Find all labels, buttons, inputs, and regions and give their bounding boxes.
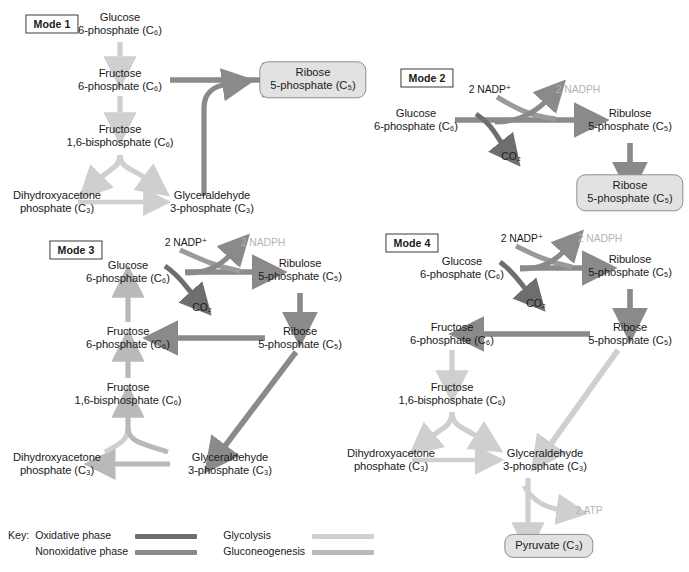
metabolite-line-1: Fructose <box>431 321 474 333</box>
metabolite-line-2: 5-phosphate (C₅) <box>588 266 672 278</box>
metabolite-line-2: 5-phosphate (C₅) <box>588 334 672 346</box>
metabolite-line-1: Fructose <box>107 381 150 393</box>
metabolite-line-2: 5-phosphate (C₅) <box>270 80 355 92</box>
mode3-ribulose-5-phosphate: Ribulose 5-phosphate (C₅) <box>258 257 342 283</box>
mode3-co2-label: CO₂ <box>192 302 211 314</box>
metabolite-line-2: 5-phosphate (C₅) <box>258 338 342 350</box>
metabolite-line-1: Dihydroxyacetone <box>13 189 101 201</box>
legend-swatch-nonoxidative <box>135 550 197 555</box>
metabolite-line-2: 5-phosphate (C₅) <box>258 270 342 282</box>
legend-label-nonoxidative: Nonoxidative phase <box>35 545 135 561</box>
legend: Key: Oxidative phase Glycolysis Nonoxida… <box>8 529 374 561</box>
metabolite-line-2: 5-phosphate (C₅) <box>587 193 672 205</box>
legend-label-gluconeogenesis: Gluconeogenesis <box>223 545 312 561</box>
mode4-ribose-5-phosphate: Ribose 5-phosphate (C₅) <box>588 321 672 347</box>
mode3-glyceraldehyde-3-phosphate: Glyceraldehyde 3-phosphate (C₃) <box>188 451 272 477</box>
mode2-nadp-plus-label: 2 NADP⁺ <box>469 84 511 96</box>
metabolite-line-1: Fructose <box>431 381 474 393</box>
mode1-fructose-1-6-bisphosphate: Fructose 1,6-bisphosphate (C₆) <box>67 123 174 149</box>
metabolite-line-2: 6-phosphate (C₆) <box>410 334 494 346</box>
metabolite-line-2: 1,6-bisphosphate (C₆) <box>75 394 182 406</box>
mode3-nadph-label: 2 NADPH <box>241 237 285 249</box>
mode1-glyceraldehyde-3-phosphate: Glyceraldehyde 3-phosphate (C₃) <box>170 189 254 215</box>
mode4-co2-label: CO₂ <box>526 298 545 310</box>
metabolite-line-2: 6-phosphate (C₆) <box>78 80 162 92</box>
metabolite-line-2: 6-phosphate (C₆) <box>78 24 162 36</box>
mode1-dihydroxyacetone-phosphate: Dihydroxyacetone phosphate (C₃) <box>13 189 101 215</box>
mode4-dihydroxyacetone-phosphate: Dihydroxyacetone phosphate (C₃) <box>347 447 435 473</box>
mode4-nadp-plus-label: 2 NADP⁺ <box>501 233 543 245</box>
metabolite-line-1: Ribose <box>283 325 317 337</box>
metabolite-line-1: Glucose <box>108 259 148 271</box>
mode3-fructose-1-6-bisphosphate: Fructose 1,6-bisphosphate (C₆) <box>75 381 182 407</box>
metabolite-line-2: 5-phosphate (C₅) <box>588 120 672 132</box>
legend-title: Key: <box>8 529 35 545</box>
metabolite-line-1: Glyceraldehyde <box>507 447 583 459</box>
metabolite-line-2: 3-phosphate (C₃) <box>188 464 272 476</box>
mode4-pyruvate-product: Pyruvate (C₃) <box>504 534 593 558</box>
legend-swatch-oxidative <box>135 534 197 539</box>
metabolite-line-1: Ribose <box>613 179 648 191</box>
mode2-glucose-6-phosphate: Glucose 6-phosphate (C₆) <box>374 107 458 133</box>
metabolite-line-1: Glyceraldehyde <box>192 451 268 463</box>
metabolite-line-2: 3-phosphate (C₃) <box>503 460 587 472</box>
mode3-fructose-6-phosphate: Fructose 6-phosphate (C₆) <box>86 325 170 351</box>
mode2-ribose-5-phosphate-product: Ribose 5-phosphate (C₅) <box>576 174 683 211</box>
metabolite-line-1: Fructose <box>99 123 142 135</box>
metabolite-line-2: 6-phosphate (C₆) <box>86 338 170 350</box>
mode4-ribulose-5-phosphate: Ribulose 5-phosphate (C₅) <box>588 253 672 279</box>
metabolite-line-1: Ribulose <box>609 107 652 119</box>
legend-label-oxidative: Oxidative phase <box>35 529 135 545</box>
mode3-ribose-5-phosphate: Ribose 5-phosphate (C₅) <box>258 325 342 351</box>
mode-2-label: Mode 2 <box>400 69 453 88</box>
metabolite-line-1: Ribulose <box>279 257 322 269</box>
metabolite-line-1: Glucose <box>396 107 436 119</box>
metabolite-line-1: Dihydroxyacetone <box>347 447 435 459</box>
metabolite-line-2: 3-phosphate (C₃) <box>170 202 254 214</box>
mode-3-label: Mode 3 <box>49 241 102 260</box>
mode4-nadph-label: 2 NADPH <box>578 233 622 245</box>
metabolite-line-1: Glucose <box>442 255 482 267</box>
metabolite-line-2: phosphate (C₃) <box>20 464 94 476</box>
legend-swatch-glycolysis <box>312 534 374 539</box>
mode2-ribulose-5-phosphate: Ribulose 5-phosphate (C₅) <box>588 107 672 133</box>
metabolite-line-1: Fructose <box>99 67 142 79</box>
mode4-glucose-6-phosphate: Glucose 6-phosphate (C₆) <box>420 255 504 281</box>
mode-4-label: Mode 4 <box>385 234 438 253</box>
mode-1-label: Mode 1 <box>25 15 78 34</box>
metabolite-line-2: 1,6-bisphosphate (C₆) <box>399 394 506 406</box>
mode1-glucose-6-phosphate: Glucose 6-phosphate (C₆) <box>78 11 162 37</box>
metabolite-line-2: 6-phosphate (C₆) <box>374 120 458 132</box>
metabolite-line-1: Glucose <box>100 11 140 23</box>
legend-swatch-gluconeogenesis <box>312 550 374 555</box>
mode2-co2-label: CO₂ <box>501 151 520 163</box>
mode3-nadp-plus-label: 2 NADP⁺ <box>165 237 207 249</box>
mode4-fructose-6-phosphate: Fructose 6-phosphate (C₆) <box>410 321 494 347</box>
metabolite-line-1: Fructose <box>107 325 150 337</box>
pentose-phosphate-pathway-figure: Mode 1 Glucose 6-phosphate (C₆) Fructose… <box>0 0 689 572</box>
mode1-fructose-6-phosphate: Fructose 6-phosphate (C₆) <box>78 67 162 93</box>
legend-label-glycolysis: Glycolysis <box>223 529 312 545</box>
mode4-glyceraldehyde-3-phosphate: Glyceraldehyde 3-phosphate (C₃) <box>503 447 587 473</box>
metabolite-line-1: Glyceraldehyde <box>174 189 250 201</box>
metabolite-line-2: 6-phosphate (C₆) <box>86 272 170 284</box>
metabolite-line-2: 1,6-bisphosphate (C₆) <box>67 136 174 148</box>
mode4-atp-label: 2 ATP <box>575 505 602 517</box>
mode3-glucose-6-phosphate: Glucose 6-phosphate (C₆) <box>86 259 170 285</box>
metabolite-line-2: 6-phosphate (C₆) <box>420 268 504 280</box>
metabolite-line-1: Ribulose <box>609 253 652 265</box>
metabolite-line-1: Ribose <box>296 66 331 78</box>
metabolite-line-2: phosphate (C₃) <box>354 460 428 472</box>
mode1-ribose-5-phosphate-product: Ribose 5-phosphate (C₅) <box>259 61 366 98</box>
metabolite-line-2: phosphate (C₃) <box>20 202 94 214</box>
metabolite-line-1: Dihydroxyacetone <box>13 451 101 463</box>
mode4-fructose-1-6-bisphosphate: Fructose 1,6-bisphosphate (C₆) <box>399 381 506 407</box>
mode2-nadph-label: 2 NADPH <box>556 84 600 96</box>
mode3-dihydroxyacetone-phosphate: Dihydroxyacetone phosphate (C₃) <box>13 451 101 477</box>
metabolite-line-1: Ribose <box>613 321 647 333</box>
